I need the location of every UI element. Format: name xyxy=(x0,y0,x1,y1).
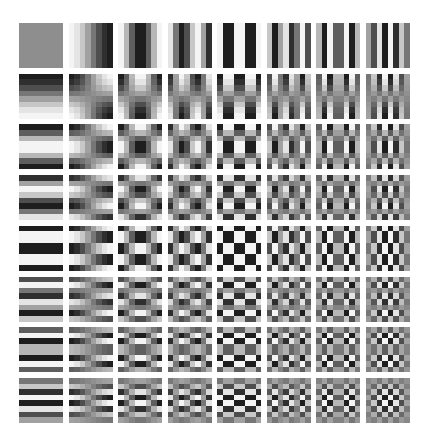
basis-tile-r0-c6 xyxy=(316,23,360,68)
basis-tile-r1-c3 xyxy=(168,74,212,119)
basis-tile-r0-c5 xyxy=(267,23,311,68)
basis-tile-r4-c2 xyxy=(118,226,162,271)
basis-tile-r0-c1 xyxy=(69,23,113,68)
basis-tile-r5-c1 xyxy=(69,277,113,322)
basis-tile-r7-c1 xyxy=(69,378,113,423)
basis-tile-r4-c0 xyxy=(19,226,63,271)
basis-tile-r1-c1 xyxy=(69,74,113,119)
basis-tile-r5-c7 xyxy=(366,277,410,322)
basis-tile-r7-c3 xyxy=(168,378,212,423)
basis-tile-r0-c7 xyxy=(366,23,410,68)
basis-tile-r6-c2 xyxy=(118,327,162,372)
basis-tile-r1-c0 xyxy=(19,74,63,119)
basis-tile-r2-c7 xyxy=(366,124,410,169)
basis-tile-r7-c5 xyxy=(267,378,311,423)
basis-tile-r2-c2 xyxy=(118,124,162,169)
basis-tile-r0-c4 xyxy=(217,23,261,68)
basis-tile-r2-c5 xyxy=(267,124,311,169)
basis-tile-r2-c6 xyxy=(316,124,360,169)
basis-tile-r5-c0 xyxy=(19,277,63,322)
basis-tile-r7-c6 xyxy=(316,378,360,423)
basis-tile-r6-c3 xyxy=(168,327,212,372)
basis-tile-r1-c2 xyxy=(118,74,162,119)
basis-tile-r3-c0 xyxy=(19,175,63,220)
basis-tile-r1-c5 xyxy=(267,74,311,119)
basis-tile-r4-c3 xyxy=(168,226,212,271)
basis-tile-r6-c7 xyxy=(366,327,410,372)
basis-tile-r1-c6 xyxy=(316,74,360,119)
basis-tile-r6-c1 xyxy=(69,327,113,372)
basis-tile-r3-c1 xyxy=(69,175,113,220)
basis-tile-r4-c6 xyxy=(316,226,360,271)
basis-tile-r6-c4 xyxy=(217,327,261,372)
basis-tile-r4-c4 xyxy=(217,226,261,271)
basis-tile-r7-c4 xyxy=(217,378,261,423)
basis-tile-r2-c0 xyxy=(19,124,63,169)
basis-tile-r7-c7 xyxy=(366,378,410,423)
basis-tile-r1-c4 xyxy=(217,74,261,119)
basis-tile-r5-c4 xyxy=(217,277,261,322)
basis-tile-r4-c5 xyxy=(267,226,311,271)
basis-tile-r0-c0 xyxy=(19,23,63,68)
basis-tile-r3-c7 xyxy=(366,175,410,220)
basis-tile-r3-c4 xyxy=(217,175,261,220)
basis-tile-r2-c3 xyxy=(168,124,212,169)
basis-tile-r4-c1 xyxy=(69,226,113,271)
basis-tile-r3-c2 xyxy=(118,175,162,220)
basis-tile-r7-c2 xyxy=(118,378,162,423)
basis-tile-r4-c7 xyxy=(366,226,410,271)
basis-tile-r5-c3 xyxy=(168,277,212,322)
basis-tile-r2-c4 xyxy=(217,124,261,169)
basis-tile-r3-c5 xyxy=(267,175,311,220)
basis-tile-r0-c3 xyxy=(168,23,212,68)
basis-tile-r1-c7 xyxy=(366,74,410,119)
basis-tile-r6-c5 xyxy=(267,327,311,372)
basis-tile-r7-c0 xyxy=(19,378,63,423)
dct-basis-figure: 8x8 DCT basis functions xyxy=(0,0,430,446)
basis-tile-r5-c5 xyxy=(267,277,311,322)
basis-tile-r6-c6 xyxy=(316,327,360,372)
basis-tile-r5-c6 xyxy=(316,277,360,322)
basis-tile-r2-c1 xyxy=(69,124,113,169)
basis-tile-r5-c2 xyxy=(118,277,162,322)
basis-tile-r3-c6 xyxy=(316,175,360,220)
basis-tile-r0-c2 xyxy=(118,23,162,68)
basis-tile-r6-c0 xyxy=(19,327,63,372)
basis-tile-r3-c3 xyxy=(168,175,212,220)
